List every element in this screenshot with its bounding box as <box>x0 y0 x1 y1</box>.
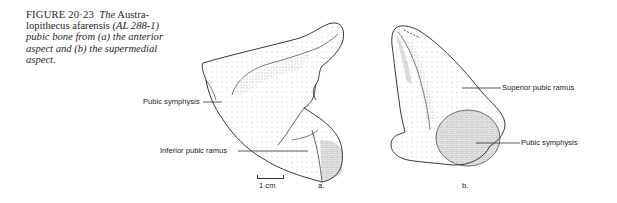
label-pubic-symphysis-a: Pubic symphysis <box>143 97 200 106</box>
scale-bar-label: 1 cm <box>259 181 275 190</box>
bone-illustrations <box>0 0 617 203</box>
label-inferior-pubic-ramus: Inferior pubic ramus <box>160 146 227 155</box>
label-superior-pubic-ramus: Superior pubic ramus <box>502 83 574 92</box>
bone-b-supermedial <box>391 26 505 166</box>
label-pubic-symphysis-b: Pubic symphysis <box>521 138 578 147</box>
bone-a-anterior <box>202 23 343 182</box>
scale-bar <box>257 175 284 179</box>
subfigure-label-b: b. <box>462 181 468 190</box>
subfigure-label-a: a. <box>318 181 324 190</box>
